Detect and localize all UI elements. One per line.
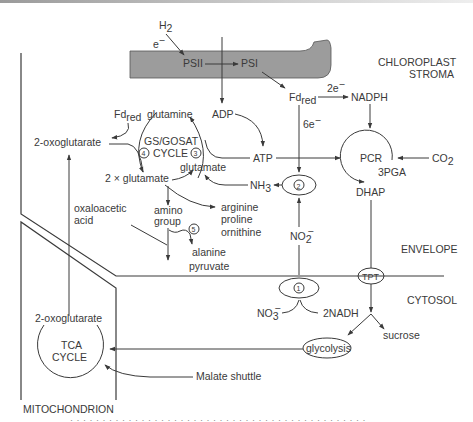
adp-label: ADP: [212, 108, 234, 120]
oxaloacetic-line2: acid: [74, 214, 93, 226]
amino-to-alanine-arrow: [169, 230, 192, 244]
no3-label: NO3−: [257, 302, 281, 322]
step-1-label: 1: [297, 285, 301, 292]
region-envelope-label: ENVELOPE: [401, 243, 458, 255]
mito-oxoglutarate-label: 2-oxoglutarate: [35, 312, 102, 324]
step-5-label: 5: [192, 226, 196, 233]
fd-to-oxoglutarate-arrow: [112, 123, 129, 138]
nadh-branch: [300, 300, 318, 313]
fd-red-left-label: Fdred: [114, 108, 142, 123]
pyruvate-label: pyruvate: [189, 260, 229, 272]
malate-shuttle-label: Malate shuttle: [196, 370, 262, 382]
tca-line2: CYCLE: [52, 351, 87, 363]
region-mitochondrion-label: MITOCHONDRION: [23, 403, 114, 415]
pcr-label: PCR: [360, 152, 383, 164]
no3-branch: [282, 300, 299, 313]
two-nadh-label: 2NADH: [323, 307, 359, 319]
nitrogen-assimilation-diagram: PSII PSI H2 e− CHLOROPLAST STROMA Fdred …: [0, 0, 473, 422]
chloroplast-envelope-left: [21, 53, 444, 276]
region-chloroplast-label: CHLOROPLAST: [378, 56, 457, 68]
oxaloacetic-to-amino-line: [131, 225, 167, 245]
to-sucrose-arrow: [371, 314, 384, 329]
nh3-to-glutamate-arrow: [205, 175, 248, 185]
h2-label: H2: [159, 19, 173, 34]
glutamine-label: glutamine: [147, 108, 193, 120]
ornithine-label: ornithine: [221, 226, 261, 238]
two-glutamate-label: 2 × glutamate: [105, 172, 169, 184]
atp-label: ATP: [253, 152, 273, 164]
oxoglutarate-to-cycle-line: [109, 144, 143, 172]
arginine-label: arginine: [221, 201, 259, 213]
tca-line1: TCA: [61, 339, 82, 351]
alanine-label: alanine: [192, 246, 226, 258]
three-pga-label: 3PGA: [378, 166, 406, 178]
step-2-label: 2: [297, 183, 301, 190]
co2-label: CO2: [432, 152, 454, 167]
adp-to-atp-arrow: [235, 114, 263, 146]
psi-label: PSI: [241, 57, 258, 69]
fd-red-label: Fdred: [289, 91, 317, 106]
psii-label: PSII: [183, 57, 203, 69]
atp-to-gs-cycle-line: [205, 140, 250, 158]
tpt-label: TPT: [362, 272, 380, 282]
electron-label: e−: [153, 34, 165, 50]
dhap-label: DHAP: [356, 186, 385, 198]
region-cytosol-label: CYTOSOL: [407, 294, 457, 306]
malate-shuttle-arrow: [105, 365, 193, 377]
sucrose-label: sucrose: [383, 329, 420, 341]
cropped-caption-text: · · · · · · · · · · · · · · · · · · · · …: [70, 415, 366, 422]
glutamate-label: glutamate: [180, 161, 226, 173]
gs-cycle-line1: GS/GOSAT: [144, 135, 199, 147]
oxaloacetic-line1: oxaloacetic: [74, 202, 127, 214]
gs-cycle-line2: CYCLE: [153, 147, 188, 159]
step-3-label: 3: [194, 150, 198, 157]
nh3-label: NH3: [250, 179, 271, 194]
glycolysis-label: glycolysis: [306, 342, 351, 354]
six-electron-label: 6e−: [303, 114, 321, 130]
nadph-label: NADPH: [351, 91, 388, 103]
region-stroma-label: STROMA: [409, 68, 454, 80]
proline-label: proline: [221, 213, 253, 225]
two-oxoglutarate-stroma-label: 2-oxoglutarate: [34, 136, 101, 148]
step-4-label: 4: [142, 150, 146, 157]
amino-group-line2: group: [154, 215, 181, 227]
two-electron-label: 2e−: [327, 78, 345, 94]
